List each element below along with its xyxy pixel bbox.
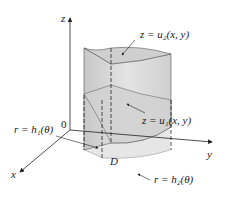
y-axis-label: y: [206, 148, 212, 160]
outer-boundary-label: r = h₂(θ): [154, 173, 194, 186]
lower-surface-label: z = u₁(x, y): [141, 114, 191, 127]
origin-label: 0: [61, 118, 67, 130]
z-axis-label: z: [60, 12, 66, 24]
polar-region-diagram: z y x 0 z = u₂(x, y) z = u₁(x, y) r = h₁…: [0, 0, 227, 203]
x-axis: [20, 130, 70, 172]
region-label: D: [109, 155, 118, 167]
inner-boundary-label: r = h₁(θ): [14, 123, 54, 136]
upper-surface-label: z = u₂(x, y): [139, 28, 189, 41]
x-axis-label: x: [10, 168, 16, 180]
